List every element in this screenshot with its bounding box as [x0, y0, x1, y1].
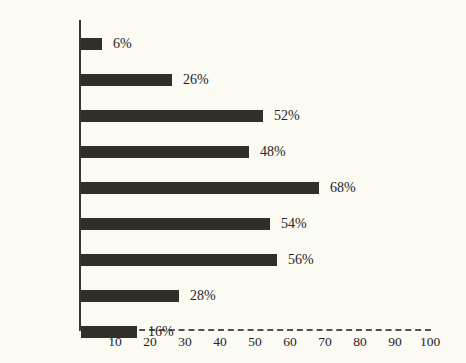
x-axis-tick-label: 30 — [165, 334, 205, 350]
x-axis-tick-label: 90 — [375, 334, 415, 350]
bar-value-label: 48% — [260, 146, 286, 158]
bar — [81, 218, 270, 230]
bar-row: voice26% — [0, 56, 466, 92]
bar-value-label: 52% — [274, 110, 300, 122]
x-axis-tick-label: 10 — [95, 334, 135, 350]
bar — [81, 38, 102, 50]
bar-chart: valence6%voice26%aspect52%tense48%mood68… — [0, 0, 466, 363]
bar-value-label: 26% — [183, 74, 209, 86]
bar — [81, 290, 179, 302]
bar-category-label: mood — [0, 166, 72, 182]
bar — [81, 182, 319, 194]
bar-category-label: valence — [0, 22, 72, 38]
x-axis-tick-label: 20 — [130, 334, 170, 350]
x-axis-tick-label: 80 — [340, 334, 380, 350]
bar-row: valence6% — [0, 20, 466, 56]
x-axis-tick-label: 60 — [270, 334, 310, 350]
bar-category-label: tense — [0, 130, 72, 146]
bar-category-label: voice — [0, 58, 72, 74]
bar — [81, 74, 172, 86]
bar-value-label: 28% — [190, 290, 216, 302]
bar — [81, 146, 249, 158]
bar-value-label: 6% — [113, 38, 132, 50]
bar-row: number54% — [0, 200, 466, 236]
bar — [81, 110, 263, 122]
bar-category-label: person (object) — [0, 266, 72, 298]
bar-category-label: person — [0, 238, 72, 254]
x-axis-tick-label: 100 — [410, 334, 450, 350]
bar-row: tense48% — [0, 128, 466, 164]
bar — [81, 254, 277, 266]
x-axis-tick-label: 40 — [200, 334, 240, 350]
bar-category-label: gender — [0, 310, 72, 326]
bar-value-label: 68% — [330, 182, 356, 194]
bar-category-label: aspect — [0, 94, 72, 110]
x-axis-tick-label: 50 — [235, 334, 275, 350]
bar-row: mood68% — [0, 164, 466, 200]
bar-category-label: number — [0, 202, 72, 218]
bar-value-label: 54% — [281, 218, 307, 230]
bar-value-label: 56% — [288, 254, 314, 266]
x-axis-tick-label: 70 — [305, 334, 345, 350]
bar-row: aspect52% — [0, 92, 466, 128]
bar-row: person (object)28% — [0, 272, 466, 308]
